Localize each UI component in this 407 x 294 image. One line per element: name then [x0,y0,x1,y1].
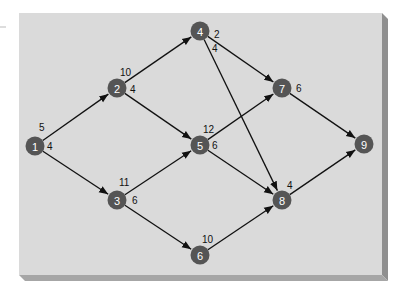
node-6: 6 [191,246,210,265]
node-5: 5 [191,136,210,155]
network-diagram: 123456789 54104116241266104 [0,0,407,294]
node-label: 4 [197,26,203,38]
node-label: 7 [279,83,285,95]
edge-weight-label: 5 [39,122,45,133]
node-2: 2 [108,79,127,98]
edge-weight-label: 11 [119,177,130,188]
edge-weight-label: 4 [212,43,218,54]
panel-bevel-bottom [19,275,388,281]
node-label: 1 [32,141,38,153]
edge-weight-label: 4 [130,84,136,95]
node-label: 3 [114,195,120,207]
node-label: 8 [279,195,285,207]
node-9: 9 [355,135,374,154]
edge-weight-label: 6 [132,195,138,206]
node-3: 3 [108,191,127,210]
edge-weight-label: 10 [202,234,214,245]
edge-weight-label: 6 [212,140,218,151]
node-1: 1 [26,137,45,156]
node-8: 8 [273,191,292,210]
edge-weight-label: 4 [47,141,53,152]
edge-weight-label: 6 [296,83,302,94]
edge-weight-label: 2 [214,29,220,40]
edge-weight-label: 12 [203,124,215,135]
node-label: 9 [361,139,367,151]
node-7: 7 [273,79,292,98]
node-4: 4 [191,22,210,41]
node-label: 5 [197,140,203,152]
panel-bevel-right [382,13,388,281]
node-label: 2 [114,83,120,95]
node-label: 6 [197,250,203,262]
edge-weight-label: 10 [120,67,132,78]
edge-weight-label: 4 [287,180,293,191]
